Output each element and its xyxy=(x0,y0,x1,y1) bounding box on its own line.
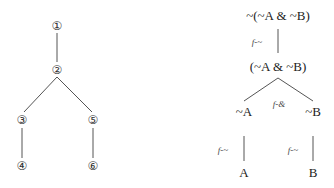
tree-node-6: ⑥ xyxy=(88,160,99,172)
tree-node-3: ③ xyxy=(17,114,28,126)
tree-node-5: ⑤ xyxy=(88,114,99,126)
rule-label-and: f-& xyxy=(273,99,286,109)
formula-root: ~(~A & ~B) xyxy=(246,9,310,22)
tree-node-2: ② xyxy=(52,64,63,76)
rule-label-neg-b: f-~ xyxy=(288,145,298,155)
rule-label-neg-root: f-~ xyxy=(252,37,262,47)
tree-node-1: ① xyxy=(52,20,63,32)
formula-b: B xyxy=(309,166,318,179)
rule-label-neg-a: f-~ xyxy=(218,145,228,155)
formula-conjunction: (~A & ~B) xyxy=(250,60,307,73)
tree-node-4: ④ xyxy=(17,160,28,172)
formula-not-a: ~A xyxy=(236,105,252,118)
edge-2-5 xyxy=(57,77,92,112)
formula-a: A xyxy=(239,166,248,179)
tree-edges xyxy=(0,0,334,188)
formula-not-b: ~B xyxy=(305,105,321,118)
edge-2-3 xyxy=(24,77,57,112)
edge-r2-r3 xyxy=(244,78,278,101)
edge-r2-r4 xyxy=(278,78,313,101)
